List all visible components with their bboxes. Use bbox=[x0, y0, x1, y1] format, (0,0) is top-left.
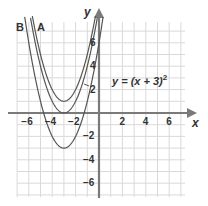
y-tick-label: −6 bbox=[83, 177, 94, 188]
equation-exponent: 2 bbox=[163, 73, 167, 82]
x-tick-label: −4 bbox=[45, 116, 56, 127]
x-tick-label: −6 bbox=[21, 116, 32, 127]
x-tick-label: −2 bbox=[68, 116, 79, 127]
y-axis-label: y bbox=[84, 5, 91, 19]
equation-label: y = (x + 3)2 bbox=[112, 73, 167, 87]
y-tick-label: 6 bbox=[90, 37, 96, 48]
x-axis-label: x bbox=[192, 116, 199, 130]
x-tick-label: 6 bbox=[166, 116, 172, 127]
y-tick-label: 4 bbox=[90, 60, 96, 71]
graph-plot bbox=[0, 0, 208, 206]
equation-text: y = (x + 3) bbox=[112, 75, 163, 87]
x-tick-label: 2 bbox=[119, 116, 125, 127]
y-tick-label: −4 bbox=[83, 154, 94, 165]
x-tick-label: 4 bbox=[143, 116, 149, 127]
y-tick-label: −2 bbox=[83, 130, 94, 141]
y-tick-label: 2 bbox=[90, 84, 96, 95]
curve-label-a: A bbox=[37, 21, 45, 33]
curve-label-b: B bbox=[16, 21, 24, 33]
